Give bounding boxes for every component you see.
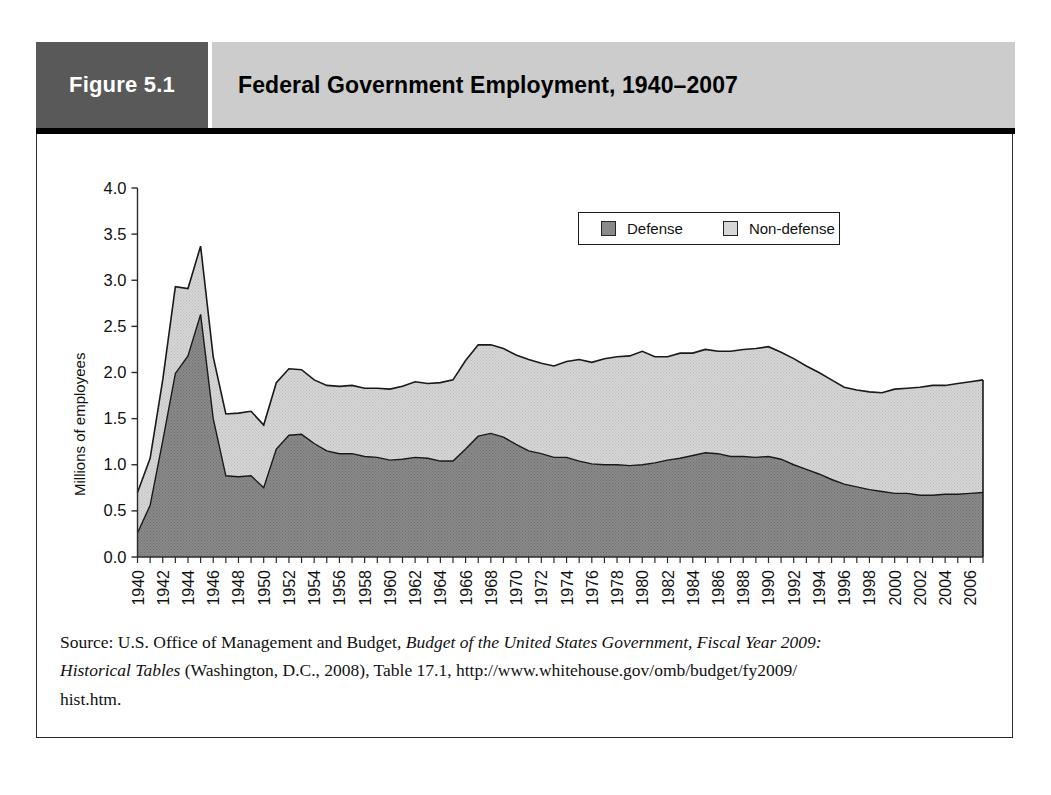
y-axis-label: Millions of employees [53, 278, 75, 498]
source-line3: hist.htm. [60, 689, 121, 709]
legend-swatch-defense-icon [601, 221, 616, 236]
source-line2-italic: Historical Tables [60, 660, 180, 680]
source-note: Source: U.S. Office of Management and Bu… [60, 628, 965, 713]
figure-title-text: Federal Government Employment, 1940–2007 [212, 72, 738, 99]
legend-item-defense: Defense [601, 220, 683, 237]
chart-legend: Defense Non-defense [578, 212, 840, 245]
figure-number-badge: Figure 5.1 [36, 42, 208, 128]
figure-header: Figure 5.1 Federal Government Employment… [36, 42, 1015, 128]
source-line2-plain: (Washington, D.C., 2008), Table 17.1, ht… [180, 660, 797, 680]
y-axis-label-text: Millions of employees [71, 353, 88, 496]
legend-label-defense: Defense [627, 220, 683, 237]
source-line1-plain: Source: U.S. Office of Management and Bu… [60, 632, 406, 652]
legend-swatch-nondefense-icon [723, 221, 738, 236]
legend-label-nondefense: Non-defense [749, 220, 835, 237]
figure-root: Figure 5.1 Federal Government Employment… [0, 0, 1051, 795]
figure-number-text: Figure 5.1 [69, 72, 175, 98]
source-line1-italic: Budget of the United States Government, … [406, 632, 822, 652]
figure-title-bar: Federal Government Employment, 1940–2007 [212, 42, 1015, 128]
legend-item-nondefense: Non-defense [723, 220, 835, 237]
